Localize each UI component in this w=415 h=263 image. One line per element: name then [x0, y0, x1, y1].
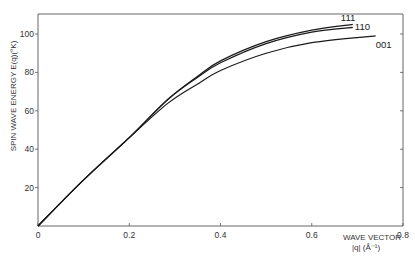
curve-001: [38, 36, 376, 226]
plot-frame: [38, 14, 403, 226]
curve-110: [38, 27, 353, 226]
y-axis-ticks: 20406080100: [20, 29, 403, 193]
y-tick-label: 40: [25, 144, 35, 154]
x-tick-label: 0.2: [123, 230, 135, 240]
y-tick-label: 80: [25, 67, 35, 77]
x-axis-label-line2: |q| (Å⁻¹): [352, 243, 380, 252]
series-label-111: 111: [341, 12, 355, 23]
series-label-110: 110: [355, 21, 370, 32]
series-label-001: 001: [376, 39, 392, 50]
x-tick-label: 0.6: [306, 230, 318, 240]
y-tick-label: 20: [25, 183, 35, 193]
series-labels: 111110001: [341, 12, 392, 50]
x-tick-label: 0.4: [215, 230, 227, 240]
y-axis-label: SPIN WAVE ENERGY E(q)(°K): [9, 40, 18, 151]
x-tick-label: 0: [36, 230, 41, 240]
axes-box: [38, 14, 403, 226]
curve-111: [38, 24, 353, 226]
y-tick-label: 100: [20, 29, 34, 39]
y-tick-label: 60: [25, 106, 35, 116]
x-axis-label-line1: WAVE VECTOR: [343, 233, 401, 242]
dispersion-curves: [38, 24, 376, 226]
spin-wave-chart: 20406080100 00.20.40.60.8 111110001 SPIN…: [0, 0, 415, 263]
